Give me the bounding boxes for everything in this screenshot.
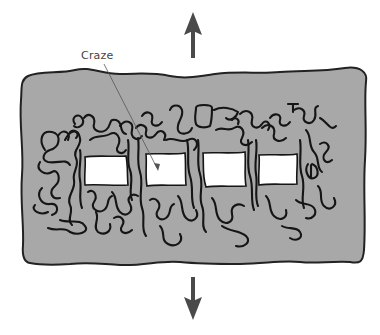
arrow-down-icon xyxy=(184,277,202,320)
void-3 xyxy=(203,152,246,187)
craze-diagram xyxy=(0,0,380,335)
arrow-up-icon xyxy=(184,12,202,58)
craze-label: Craze xyxy=(81,49,114,62)
void-4 xyxy=(259,154,298,185)
void-1 xyxy=(85,156,128,185)
